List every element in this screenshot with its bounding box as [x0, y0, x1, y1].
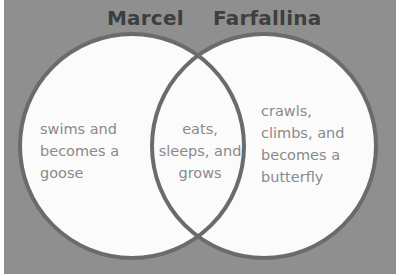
marcel-only-text: swims and becomes a goose [40, 118, 119, 184]
set-label-farfallina: Farfallina [213, 6, 321, 30]
intersection-text: eats, sleeps, and grows [144, 118, 256, 184]
farfallina-only-text: crawls, climbs, and becomes a butterfly [261, 100, 344, 188]
set-label-marcel: Marcel [107, 6, 184, 30]
